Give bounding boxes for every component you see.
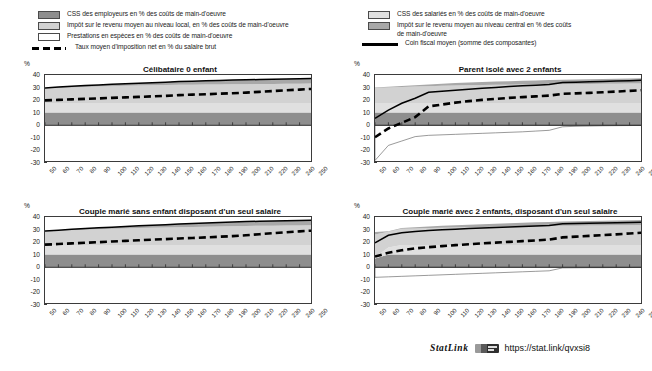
x-axis-tick-label: 220: [607, 307, 618, 318]
x-axis-tick-label: 90: [432, 307, 441, 316]
chart-title: Couple marié avec 2 enfants, disposant d…: [374, 207, 646, 216]
y-axis-tick-mark: [44, 304, 47, 305]
x-axis-tick-label: 210: [594, 165, 605, 176]
y-axis-unit-label: %: [24, 202, 30, 209]
x-axis-tick-label: 240: [634, 165, 645, 176]
x-axis-tick-label: 240: [634, 307, 645, 318]
x-axis-tick-label: 160: [527, 307, 538, 318]
y-axis-unit-label: %: [354, 202, 360, 209]
chart-inner: %Parent isolé avec 2 enfants403020100-10…: [330, 60, 652, 198]
x-axis-tick-label: 250: [648, 307, 652, 318]
y-axis-tick-label: 0: [344, 263, 370, 270]
x-axis-tick-label: 120: [143, 165, 154, 176]
legend-label: Taux moyen d'imposition net en % du sala…: [75, 43, 216, 52]
x-axis-tick-label: 160: [197, 307, 208, 318]
x-axis-tick-label: 60: [62, 307, 71, 316]
x-axis-tick-label: 120: [473, 307, 484, 318]
x-axis-tick-label: 80: [89, 165, 98, 174]
x-axis-tick-label: 60: [392, 165, 401, 174]
y-axis-tick-label: -20: [14, 146, 40, 153]
x-axis-tick-label: 200: [581, 307, 592, 318]
x-axis-tick-label: 180: [224, 307, 235, 318]
x-axis-tick-label: 90: [102, 307, 111, 316]
chart-panel-couple-marie-2-enfants: %Couple marié avec 2 enfants, disposant …: [330, 202, 652, 340]
statlink-label: StatLink: [430, 343, 469, 353]
y-axis-tick-label: 30: [14, 225, 40, 232]
x-axis-tick-label: 190: [567, 165, 578, 176]
series-layer: [375, 75, 642, 162]
statlink-badge-icon: [475, 344, 499, 353]
x-axis-tick-label: 110: [460, 307, 471, 318]
y-axis-tick-label: 40: [14, 213, 40, 220]
legend-label: Impôt sur le revenu moyen au niveau cent…: [397, 21, 571, 38]
series-layer: [45, 217, 312, 304]
y-axis-tick-label: -10: [14, 275, 40, 282]
chart-inner: %Couple marié sans enfant disposant d'un…: [0, 202, 322, 340]
x-axis-tick-label: 170: [540, 165, 551, 176]
y-axis-tick-mark: [44, 162, 47, 163]
legend-left-item: Impôt sur le revenu moyen au niveau loca…: [38, 21, 338, 31]
x-axis-tick-label: 220: [277, 165, 288, 176]
x-axis-tick-label: 200: [251, 165, 262, 176]
y-axis-tick-label: -30: [344, 159, 370, 166]
x-axis-tick-label: 80: [419, 165, 428, 174]
y-axis-tick-mark: [374, 162, 377, 163]
negative-area-band: [375, 125, 642, 160]
x-axis-tick-label: 110: [130, 307, 141, 318]
x-axis-tick-label: 90: [432, 165, 441, 174]
y-axis-tick-label: 0: [14, 263, 40, 270]
x-axis-tick-label: 220: [277, 307, 288, 318]
negative-area-band: [375, 267, 642, 277]
x-axis-tick-label: 210: [264, 165, 275, 176]
chart-title: Parent isolé avec 2 enfants: [374, 65, 646, 74]
x-axis-tick-label: 140: [170, 165, 181, 176]
legend-right-item: Coin fiscal moyen (somme des composantes…: [368, 39, 652, 49]
series-layer: [375, 217, 642, 304]
x-axis-tick-label: 140: [500, 165, 511, 176]
x-axis-tick-label: 110: [460, 165, 471, 176]
legend-label: Impôt sur le revenu moyen au niveau loca…: [67, 21, 289, 30]
x-axis-tick-label: 50: [379, 307, 388, 316]
x-axis-labels: 5060708090100110120130140150160170180190…: [44, 306, 312, 336]
chart-inner: %Couple marié avec 2 enfants, disposant …: [330, 202, 652, 340]
y-axis-tick-label: -10: [14, 133, 40, 140]
x-axis-tick-label: 170: [210, 165, 221, 176]
y-axis-tick-label: -10: [344, 275, 370, 282]
x-axis-tick-label: 230: [621, 307, 632, 318]
y-axis-tick-label: -20: [344, 146, 370, 153]
y-axis-tick-label: 40: [344, 71, 370, 78]
y-axis-tick-label: 20: [14, 96, 40, 103]
x-axis-tick-label: 140: [500, 307, 511, 318]
x-axis-tick-label: 190: [237, 307, 248, 318]
x-axis-tick-label: 210: [594, 307, 605, 318]
y-axis-tick-label: 30: [14, 83, 40, 90]
x-axis-tick-label: 60: [392, 307, 401, 316]
x-axis-tick-label: 150: [514, 307, 525, 318]
y-axis-tick-label: 20: [344, 238, 370, 245]
y-axis-tick-label: 20: [344, 96, 370, 103]
y-axis-unit-label: %: [354, 60, 360, 67]
x-axis-tick-label: 180: [554, 165, 565, 176]
x-axis-tick-label: 50: [49, 165, 58, 174]
plot-area: [374, 216, 642, 304]
x-axis-tick-label: 210: [264, 307, 275, 318]
x-axis-tick-label: 100: [447, 307, 458, 318]
x-axis-tick-label: 100: [117, 307, 128, 318]
y-axis-tick-label: 10: [344, 250, 370, 257]
y-axis-tick-label: -10: [344, 133, 370, 140]
x-axis-tick-label: 240: [304, 165, 315, 176]
y-axis-tick-label: -30: [344, 301, 370, 308]
statlink-url[interactable]: https://stat.link/qvxsi8: [505, 343, 591, 353]
x-axis-tick-label: 70: [405, 165, 414, 174]
x-axis-tick-label: 130: [487, 307, 498, 318]
x-axis-tick-label: 110: [130, 165, 141, 176]
x-axis-tick-label: 100: [117, 165, 128, 176]
x-axis-tick-label: 180: [224, 165, 235, 176]
x-axis-tick-label: 230: [291, 165, 302, 176]
plot-area: [44, 74, 312, 162]
legend-label: CSS des salariés en % des coûts de main-…: [397, 10, 545, 19]
legend-solid-line-icon: [368, 39, 390, 49]
legend-left-item: Prestations en espèces en % des coûts de…: [38, 32, 338, 42]
chart-panel-celibataire-0-enfant: %Célibataire 0 enfant403020100-10-20-305…: [0, 60, 322, 198]
legend-swatch-icon: [368, 11, 390, 19]
